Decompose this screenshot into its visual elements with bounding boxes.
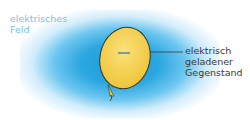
object-label-line-2: geladener: [185, 56, 243, 67]
object-label-line-1: elektrisch: [185, 45, 243, 56]
charged-object-label: elektrisch geladener Gegenstand: [185, 45, 243, 78]
object-label-line-3: Gegenstand: [185, 67, 243, 78]
